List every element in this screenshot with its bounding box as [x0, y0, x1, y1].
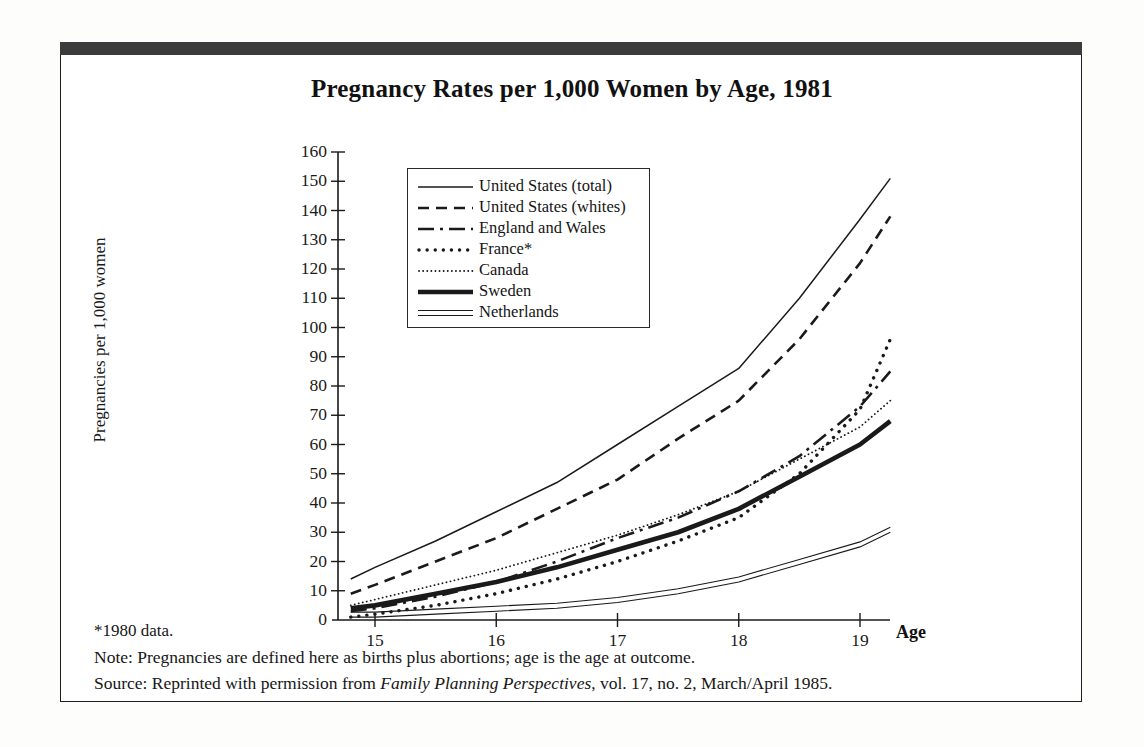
y-tick-label: 20	[273, 553, 327, 571]
figure-notes: *1980 data. Note: Pregnancies are define…	[94, 618, 1054, 696]
legend-item-label: Netherlands	[479, 304, 559, 321]
y-tick-label: 120	[273, 260, 327, 278]
y-tick-label: 10	[273, 582, 327, 600]
y-tick-label: 130	[273, 231, 327, 249]
legend-line-swatch-icon	[417, 285, 474, 299]
y-axis-title: Pregnancies per 1,000 women	[90, 180, 110, 500]
legend-line-swatch-icon	[417, 222, 474, 236]
legend-item-label: United States (whites)	[479, 199, 626, 216]
note-asterisk: *1980 data.	[94, 618, 1054, 644]
y-tick-label: 40	[273, 494, 327, 512]
y-tick-label: 60	[273, 436, 327, 454]
y-tick-label: 50	[273, 465, 327, 483]
note-body: Pregnancies are defined here as births p…	[137, 647, 695, 667]
legend-item: England and Wales	[408, 218, 649, 239]
y-tick-label: 80	[273, 377, 327, 395]
y-tick-label: 160	[273, 143, 327, 161]
legend-item-label: France*	[479, 241, 532, 258]
legend-item: United States (total)	[408, 176, 649, 197]
source-prefix: Reprinted with permission from	[152, 673, 380, 693]
figure-frame-topbar	[60, 42, 1082, 55]
figure-panel: Pregnancy Rates per 1,000 Women by Age, …	[0, 0, 1144, 747]
y-tick-label: 150	[273, 172, 327, 190]
legend-item-label: Sweden	[479, 283, 531, 300]
legend-line-swatch-icon	[417, 243, 474, 257]
legend-line-swatch-icon	[417, 180, 474, 194]
legend-item: Sweden	[408, 281, 649, 302]
y-tick-label: 70	[273, 406, 327, 424]
source-suffix: , vol. 17, no. 2, March/April 1985.	[591, 673, 832, 693]
legend-line-swatch-icon	[417, 264, 474, 278]
chart-legend: United States (total)United States (whit…	[407, 168, 650, 328]
note-label: Note:	[94, 647, 133, 667]
source-label: Source:	[94, 673, 147, 693]
legend-item: Netherlands	[408, 302, 649, 323]
legend-item: France*	[408, 239, 649, 260]
legend-item: Canada	[408, 260, 649, 281]
y-tick-label: 90	[273, 348, 327, 366]
chart-title: Pregnancy Rates per 1,000 Women by Age, …	[0, 75, 1144, 103]
legend-item: United States (whites)	[408, 197, 649, 218]
y-tick-label: 140	[273, 202, 327, 220]
figure-frame-border	[60, 42, 1082, 702]
legend-item-label: United States (total)	[479, 178, 612, 195]
legend-line-swatch-icon	[417, 201, 474, 215]
legend-item-label: England and Wales	[479, 220, 606, 237]
y-tick-label: 110	[273, 289, 327, 307]
note-definition: Note: Pregnancies are defined here as bi…	[94, 644, 1054, 670]
y-tick-label: 100	[273, 319, 327, 337]
y-tick-label: 30	[273, 523, 327, 541]
note-source: Source: Reprinted with permission from F…	[94, 670, 1054, 696]
source-publication: Family Planning Perspectives	[380, 673, 591, 693]
legend-item-label: Canada	[479, 262, 528, 279]
legend-line-swatch-icon	[417, 306, 474, 320]
